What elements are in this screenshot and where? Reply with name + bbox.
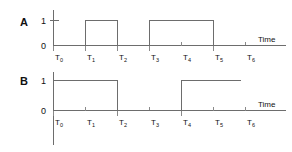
signal-a-tick-label-4: T4 <box>183 53 191 63</box>
signal-b-group: B 1 0 Time T0 T1 T2 T3 <box>20 72 286 145</box>
signal-b-level-high-label: 1 <box>41 76 46 86</box>
signal-b-name: B <box>20 75 28 87</box>
signal-a-waveform <box>54 21 246 46</box>
signal-b-tick-label-0: T0 <box>55 118 63 128</box>
signal-a-tick-label-3: T3 <box>151 53 159 63</box>
signal-a-tick-label-0: T0 <box>55 53 63 63</box>
signal-a-axis-label: Time <box>258 35 276 44</box>
signal-b-waveform <box>54 81 241 111</box>
signal-b-tick-label-4: T4 <box>183 118 191 128</box>
signal-a-tick-labels: T0 T1 T2 T3 T4 T5 T6 <box>55 53 255 63</box>
signal-b-tick-label-5: T5 <box>215 118 223 128</box>
signal-b-axis-label: Time <box>258 100 276 109</box>
signal-a-tick-label-6: T6 <box>247 53 255 63</box>
signal-a-group: A 1 0 Time T0 T1 <box>20 10 286 63</box>
signal-b-tick-label-2: T2 <box>119 118 127 128</box>
signal-b-tick-label-1: T1 <box>87 118 95 128</box>
signal-a-name: A <box>20 16 28 28</box>
signal-a-tick-label-2: T2 <box>119 53 127 63</box>
signal-b-tick-label-6: T6 <box>247 118 255 128</box>
signal-a-tick-label-5: T5 <box>215 53 223 63</box>
timing-diagram-svg: A 1 0 Time T0 T1 <box>0 0 292 152</box>
signal-b-tick-labels: T0 T1 T2 T3 T4 T5 T6 <box>55 118 255 128</box>
signal-b-level-low-label: 0 <box>41 106 46 116</box>
signal-a-level-high-label: 1 <box>41 16 46 26</box>
timing-diagram: A 1 0 Time T0 T1 <box>0 0 292 152</box>
signal-a-level-low-label: 0 <box>41 41 46 51</box>
signal-a-tick-label-1: T1 <box>87 53 95 63</box>
signal-b-tick-label-3: T3 <box>151 118 159 128</box>
